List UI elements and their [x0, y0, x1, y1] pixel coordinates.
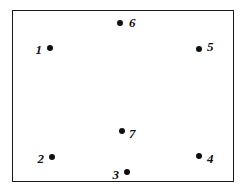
point-marker-dot: [196, 46, 202, 52]
point-marker-dot: [124, 169, 130, 175]
point-marker-dot: [117, 20, 123, 26]
point-label-5: 5: [207, 40, 214, 53]
point-label-4: 4: [207, 152, 214, 165]
point-marker-dot: [49, 154, 55, 160]
point-label-1: 1: [36, 43, 43, 56]
point-marker-dot: [119, 128, 125, 134]
point-marker-dot: [47, 45, 53, 51]
point-marker-dot: [196, 153, 202, 159]
point-label-7: 7: [129, 127, 136, 140]
figure-root: 1234567: [0, 0, 246, 195]
point-label-3: 3: [113, 168, 120, 181]
point-label-2: 2: [38, 152, 45, 165]
point-label-6: 6: [129, 16, 136, 29]
